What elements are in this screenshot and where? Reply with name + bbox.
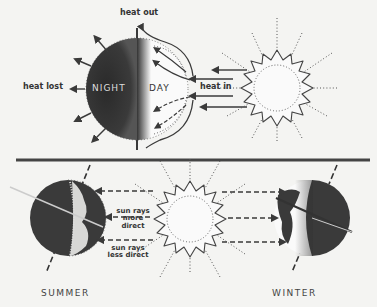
heat-out-label: heat out (120, 9, 158, 17)
diagram-drawing (0, 0, 377, 307)
winter-label: WINTER (272, 288, 317, 298)
winter-rays (222, 192, 283, 242)
summer-label: SUMMER (41, 288, 90, 298)
earth-heat-seasons-diagram: heat out heat lost heat in NIGHT DAY sun… (0, 0, 377, 307)
summer-earth (10, 165, 106, 273)
heat-in-label: heat in (200, 83, 232, 91)
rays-less-direct-label: sun rays less direct (102, 245, 154, 260)
sun-top (217, 18, 337, 143)
winter-earth (274, 165, 352, 272)
heat-lost-label: heat lost (23, 83, 63, 91)
night-label: NIGHT (92, 84, 126, 93)
rays-more-direct-label: sun rays more direct (112, 208, 154, 230)
day-label: DAY (149, 84, 170, 93)
